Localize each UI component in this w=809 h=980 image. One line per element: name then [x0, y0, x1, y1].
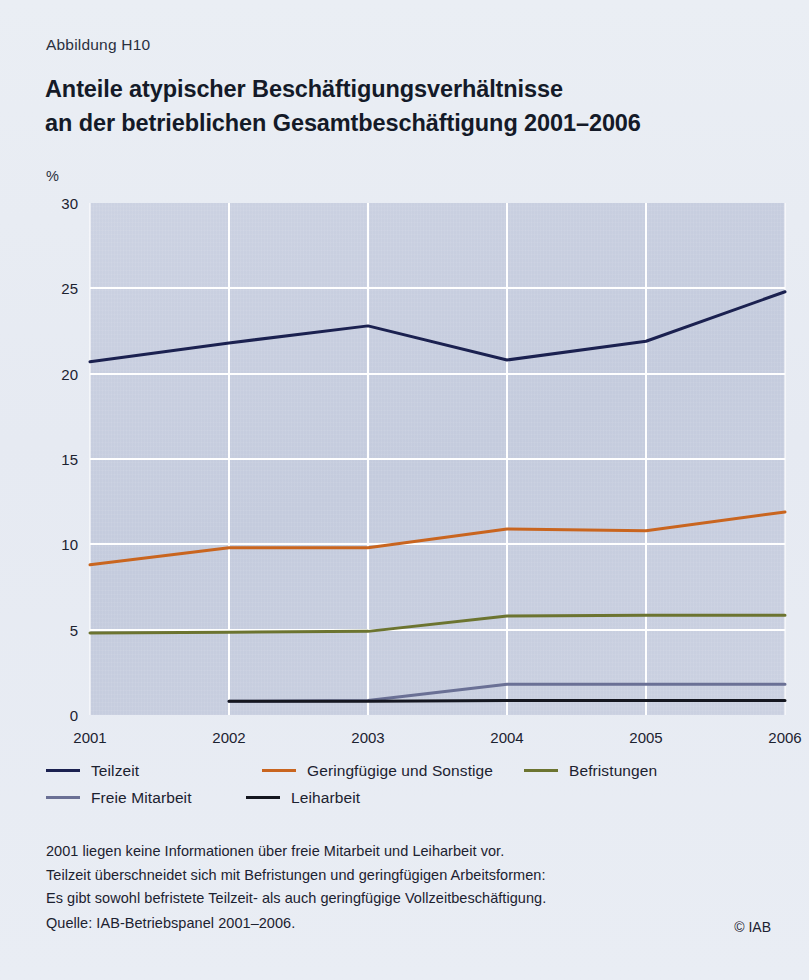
y-axis-tick-label: 10 [61, 536, 78, 553]
y-axis-tick-label: 25 [61, 280, 78, 297]
note-line: Teilzeit überschneidet sich mit Befristu… [46, 864, 771, 888]
x-axis-tick-label: 2003 [351, 729, 384, 746]
chart-legend: TeilzeitGeringfügige und SonstigeBefrist… [46, 757, 776, 811]
chart-plot-area: 051015202530 200120022003200420052006 [90, 203, 785, 715]
y-axis-unit-label: % [46, 168, 59, 184]
figure-notes: 2001 liegen keine Informationen über fre… [46, 840, 771, 935]
legend-color-swatch [46, 796, 80, 799]
legend-item-label: Leiharbeit [291, 789, 360, 807]
y-axis-tick-label: 15 [61, 451, 78, 468]
series-line-leiharbeit [229, 700, 785, 701]
legend-color-swatch [46, 769, 80, 772]
legend-item-label: Befristungen [569, 762, 657, 780]
legend-color-swatch [246, 796, 280, 799]
x-axis-tick-label: 2004 [490, 729, 523, 746]
y-axis-tick-label: 20 [61, 365, 78, 382]
y-axis-tick-label: 0 [70, 707, 78, 724]
figure-page: Abbildung H10 Anteile atypischer Beschäf… [0, 0, 809, 980]
source-label: Quelle: IAB-Betriebspanel 2001–2006. [46, 912, 295, 936]
figure-number: Abbildung H10 [46, 36, 150, 54]
legend-item-label: Freie Mitarbeit [91, 789, 192, 807]
page-title: Anteile atypischer Beschäftigungsverhält… [45, 72, 765, 140]
title-line-1: Anteile atypischer Beschäftigungsverhält… [45, 76, 563, 102]
legend-item[interactable]: Leiharbeit [246, 789, 360, 807]
legend-item[interactable]: Teilzeit [46, 762, 139, 780]
legend-item-label: Geringfügige und Sonstige [307, 762, 493, 780]
y-axis-tick-label: 30 [61, 195, 78, 212]
x-axis-tick-label: 2002 [212, 729, 245, 746]
series-line-freie-mitarbeit [229, 684, 785, 701]
legend-item[interactable]: Befristungen [524, 762, 657, 780]
y-axis-tick-label: 5 [70, 621, 78, 638]
note-line: 2001 liegen keine Informationen über fre… [46, 840, 771, 864]
legend-row-1: TeilzeitGeringfügige und SonstigeBefrist… [46, 757, 776, 784]
source-row: Quelle: IAB-Betriebspanel 2001–2006. © I… [46, 912, 771, 936]
legend-item-label: Teilzeit [91, 762, 139, 780]
x-axis-tick-label: 2006 [768, 729, 801, 746]
legend-row-2: Freie MitarbeitLeiharbeit [46, 784, 776, 811]
copyright-label: © IAB [734, 919, 771, 935]
series-lines [90, 203, 785, 715]
legend-item[interactable]: Geringfügige und Sonstige [262, 762, 493, 780]
x-axis-tick-label: 2005 [629, 729, 662, 746]
legend-item[interactable]: Freie Mitarbeit [46, 789, 192, 807]
series-line-befristungen [90, 615, 785, 633]
series-line-geringf-gige-und-sonstige [90, 512, 785, 565]
legend-color-swatch [262, 769, 296, 772]
note-line: Es gibt sowohl befristete Teilzeit- als … [46, 887, 771, 911]
title-line-2: an der betrieblichen Gesamtbeschäftigung… [45, 106, 765, 140]
series-line-teilzeit [90, 292, 785, 362]
legend-color-swatch [524, 769, 558, 772]
x-axis-tick-label: 2001 [73, 729, 106, 746]
